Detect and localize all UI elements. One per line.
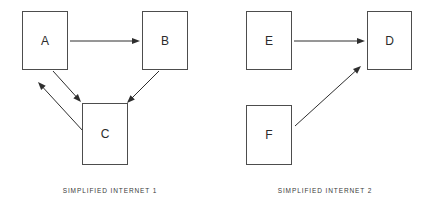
- node-a[interactable]: A: [22, 11, 68, 70]
- arrowhead-a-to-b: [132, 38, 140, 44]
- node-label-a: A: [41, 35, 49, 47]
- node-b[interactable]: B: [142, 11, 188, 70]
- node-label-b: B: [161, 35, 169, 47]
- edge-line-a-to-c: [53, 71, 77, 97]
- edge-line-c-to-a: [42, 87, 83, 131]
- caption-simplified-internet-1: SIMPLIFIED INTERNET 1: [30, 188, 190, 195]
- arrowhead-e-to-d: [357, 38, 365, 44]
- node-label-d: D: [385, 35, 394, 47]
- caption-simplified-internet-2: SIMPLIFIED INTERNET 2: [245, 188, 405, 195]
- node-label-c: C: [101, 128, 110, 140]
- edge-line-b-to-c: [132, 71, 159, 98]
- diagram-canvas: ABCSIMPLIFIED INTERNET 1EDFSIMPLIFIED IN…: [0, 0, 426, 208]
- node-label-e: E: [265, 35, 273, 47]
- edge-line-f-to-d: [295, 70, 356, 126]
- node-e[interactable]: E: [246, 11, 292, 70]
- node-c[interactable]: C: [82, 103, 128, 165]
- node-d[interactable]: D: [367, 11, 412, 70]
- node-label-f: F: [265, 129, 272, 141]
- node-f[interactable]: F: [246, 105, 292, 165]
